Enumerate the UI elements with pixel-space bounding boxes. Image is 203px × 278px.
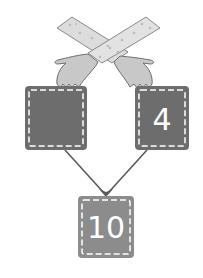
bottom-box: 10	[78, 196, 134, 258]
crossed-hands-icon	[55, 17, 160, 88]
arrow-left-to-bottom	[65, 150, 104, 193]
arrow-right-to-bottom	[108, 150, 147, 193]
number-bond-diagram: 4 10	[0, 0, 203, 278]
right-box-value: 4	[152, 102, 171, 137]
arrows	[65, 150, 147, 197]
left-hand	[55, 54, 98, 88]
bottom-box-value: 10	[87, 210, 125, 245]
right-hand	[114, 56, 154, 88]
arrowhead	[99, 189, 113, 197]
right-box: 4	[135, 86, 189, 150]
left-box	[25, 86, 87, 150]
